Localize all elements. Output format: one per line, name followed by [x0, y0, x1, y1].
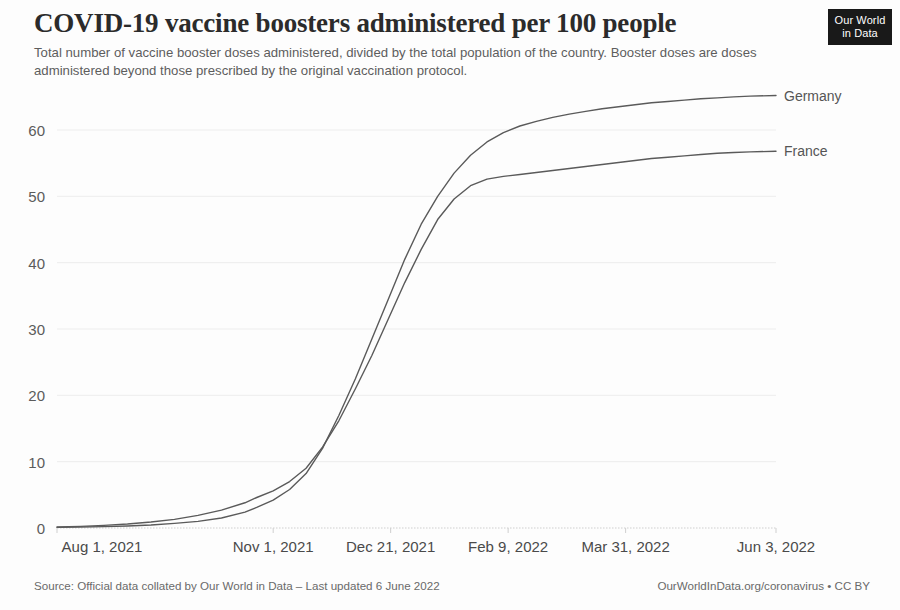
- series-label-germany[interactable]: Germany: [784, 88, 842, 104]
- chart-plot-area: 0102030405060 Aug 1, 2021Nov 1, 2021Dec …: [0, 0, 900, 610]
- x-axis-ticks: [57, 528, 776, 533]
- series-label-france[interactable]: France: [784, 143, 828, 159]
- y-axis-tick-label: 0: [5, 520, 45, 537]
- x-axis-tick-label: Nov 1, 2021: [233, 538, 314, 555]
- footer-license[interactable]: OurWorldInData.org/coronavirus • CC BY: [657, 579, 870, 592]
- x-axis-tick-label: Aug 1, 2021: [62, 538, 143, 555]
- line-chart-svg: [0, 0, 900, 610]
- footer-source: Source: Official data collated by Our Wo…: [34, 579, 440, 592]
- y-axis-tick-label: 10: [5, 453, 45, 470]
- x-axis-tick-label: Feb 9, 2022: [468, 538, 548, 555]
- y-axis-tick-label: 20: [5, 387, 45, 404]
- y-axis-tick-label: 60: [5, 122, 45, 139]
- x-axis-tick-label: Mar 31, 2022: [581, 538, 669, 555]
- x-axis-tick-label: Jun 3, 2022: [737, 538, 815, 555]
- chart-page: COVID-19 vaccine boosters administered p…: [0, 0, 900, 610]
- y-axis-tick-label: 30: [5, 321, 45, 338]
- gridlines: [57, 130, 776, 462]
- y-axis-tick-label: 50: [5, 188, 45, 205]
- y-axis-tick-label: 40: [5, 254, 45, 271]
- series-lines: [57, 96, 776, 528]
- x-axis-tick-label: Dec 21, 2021: [346, 538, 435, 555]
